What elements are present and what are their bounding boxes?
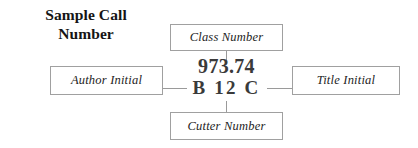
label-author-initial: Author Initial bbox=[71, 73, 142, 88]
call-number-cutter-part: B 12 C bbox=[170, 77, 283, 99]
page-title-line-1: Sample Call bbox=[6, 5, 166, 24]
label-title-initial: Title Initial bbox=[317, 73, 376, 88]
label-class-number: Class Number bbox=[190, 30, 264, 45]
page-title: Sample Call Number bbox=[6, 5, 166, 43]
label-box-cutter-number: Cutter Number bbox=[170, 112, 283, 140]
label-box-class-number: Class Number bbox=[170, 24, 283, 51]
call-number-class-part: 973.74 bbox=[170, 55, 283, 77]
call-number-value: 973.74 B 12 C bbox=[170, 55, 283, 99]
label-box-author-initial: Author Initial bbox=[50, 66, 163, 95]
page-title-line-2: Number bbox=[6, 24, 166, 43]
label-cutter-number: Cutter Number bbox=[188, 119, 266, 134]
label-box-title-initial: Title Initial bbox=[292, 66, 400, 95]
connector-callnumber-to-cutter bbox=[226, 101, 227, 112]
call-number-diagram: Sample Call Number 973.74 B 12 C Class N… bbox=[0, 0, 418, 148]
